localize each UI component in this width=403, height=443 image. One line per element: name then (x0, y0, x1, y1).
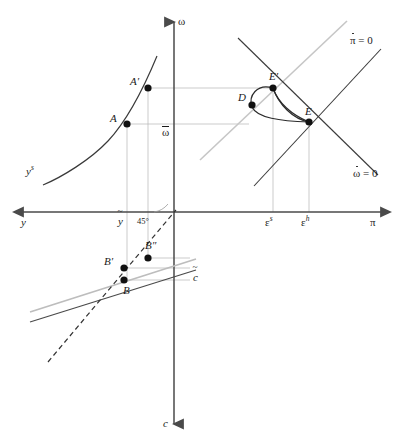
pi-axis-label: π (370, 217, 376, 228)
point-D (248, 101, 255, 108)
omega-bar-glyph: ω (162, 127, 169, 138)
pi-dot-zero-label: π = 0 (350, 35, 373, 46)
economics-diagram: ω c y π ω c y ys 45° εs εh π = 0 ω = 0 A… (0, 0, 403, 443)
diagram-canvas (0, 0, 403, 443)
epsilon-h-label: εh (301, 217, 309, 228)
y-tilde-label: y (118, 216, 123, 227)
plot-points (120, 84, 312, 283)
point-label-E: E (305, 106, 312, 117)
ys-supply-curve (43, 56, 157, 185)
point-B-prime (120, 264, 127, 271)
epsilon-s-superscript: s (270, 214, 273, 223)
point-B-double-prime (144, 254, 151, 261)
angle-45-label: 45° (137, 215, 149, 226)
trajectory-outer-arc (273, 88, 309, 122)
angle-45-value: 45 (137, 216, 146, 226)
ys-superscript: s (31, 163, 34, 172)
pi-dot-glyph: π (350, 35, 356, 46)
c-tilde-glyph: c (193, 272, 198, 283)
point-label-B-double-prime: B″ (145, 240, 156, 251)
c-tilde-label: c (193, 272, 198, 283)
trajectory-inner-arc (273, 88, 309, 122)
axis-lines (14, 22, 390, 424)
omega-bar-label: ω (162, 127, 169, 138)
y-tilde-glyph: y (118, 216, 123, 227)
point-label-E-prime: E′ (269, 71, 278, 82)
degree-sign: ° (146, 216, 149, 226)
point-E-prime (269, 84, 276, 91)
point-B (120, 276, 127, 283)
omega-dot-zero-label: ω = 0 (353, 168, 377, 179)
consumption-line-dark (30, 270, 196, 322)
point-label-A: A (110, 113, 117, 124)
y-axis-label: y (21, 217, 26, 228)
guide-lines (124, 88, 309, 280)
omega-dot-glyph: ω (353, 168, 360, 179)
forty-five-degree-arc (154, 204, 168, 212)
pi-dot-zero-equation: = 0 (356, 34, 373, 46)
point-label-D: D (238, 92, 246, 103)
ys-curve-label: ys (26, 166, 34, 177)
point-label-B: B (123, 285, 130, 296)
point-label-B-prime: B′ (104, 256, 113, 267)
point-label-A-prime: A′ (130, 76, 139, 87)
point-E (305, 118, 312, 125)
point-A-prime (144, 84, 151, 91)
point-A (123, 120, 130, 127)
epsilon-s-label: εs (265, 217, 273, 228)
omega-axis-label: ω (178, 16, 185, 27)
c-axis-label: c (163, 418, 168, 429)
omega-dot-zero-equation: = 0 (360, 167, 377, 179)
epsilon-h-superscript: h (306, 214, 310, 223)
